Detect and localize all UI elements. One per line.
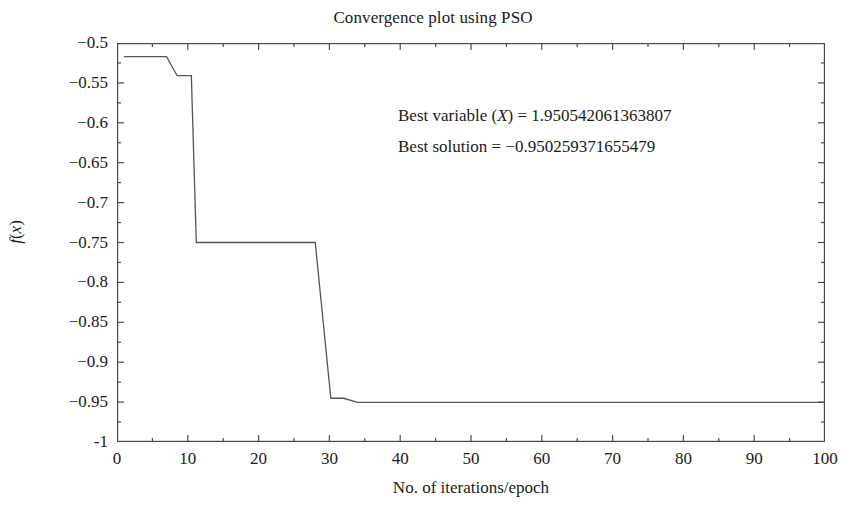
convergence-plot-figure: Convergence plot using PSO −0.5−0.55−0.6… <box>0 0 866 523</box>
x-axis-tick-label: 90 <box>746 449 763 469</box>
x-axis-tick-label: 80 <box>675 449 692 469</box>
y-axis-tick-label: −0.65 <box>69 153 108 173</box>
y-axis-tick-label: −0.55 <box>69 73 108 93</box>
x-axis-tick-label: 10 <box>179 449 196 469</box>
y-axis-tick-label: −0.75 <box>69 233 108 253</box>
chart-title: Convergence plot using PSO <box>0 8 866 28</box>
x-axis-tick-label: 0 <box>113 449 122 469</box>
y-axis-tick-label: −0.9 <box>77 352 108 372</box>
annotation-best-variable-value: 1.950542061363807 <box>531 106 671 125</box>
x-axis-tick-label: 40 <box>392 449 409 469</box>
y-axis-tick-label: −0.8 <box>77 272 108 292</box>
annotation-best-variable-symbol: X <box>497 106 507 125</box>
y-axis-tick-label: −0.95 <box>69 392 108 412</box>
annotation-best-solution-value: −0.950259371655479 <box>505 137 655 156</box>
y-axis-tick-label: −0.6 <box>77 113 108 133</box>
annotation-best-variable-prefix: Best variable ( <box>398 106 497 125</box>
annotation-best-variable: Best variable (X) = 1.950542061363807 <box>398 100 672 131</box>
x-axis-title: No. of iterations/epoch <box>117 478 825 498</box>
y-axis-title-close-paren: ) <box>6 220 25 226</box>
x-axis-tick-labels: 0102030405060708090100 <box>117 449 825 473</box>
x-axis-tick-label: 50 <box>463 449 480 469</box>
y-axis-title-open-paren: ( <box>6 233 25 239</box>
y-axis-tick-label: −0.5 <box>77 33 108 53</box>
x-axis-tick-label: 30 <box>321 449 338 469</box>
annotation-best-solution-prefix: Best solution = <box>398 137 505 156</box>
x-axis-tick-label: 60 <box>533 449 550 469</box>
annotation-best-solution: Best solution = −0.950259371655479 <box>398 131 672 162</box>
y-axis-title: f(x) <box>6 192 26 272</box>
y-axis-tick-label: -1 <box>94 432 108 452</box>
y-axis-tick-label: −0.85 <box>69 312 108 332</box>
annotation-best-variable-suffix: ) = <box>508 106 532 125</box>
x-axis-tick-label: 20 <box>250 449 267 469</box>
y-axis-title-x: x <box>6 226 25 234</box>
x-axis-tick-label: 100 <box>812 449 838 469</box>
annotation-block: Best variable (X) = 1.950542061363807 Be… <box>398 100 672 162</box>
y-axis-title-f: f <box>6 239 25 244</box>
y-axis-tick-label: −0.7 <box>77 193 108 213</box>
x-axis-tick-label: 70 <box>604 449 621 469</box>
